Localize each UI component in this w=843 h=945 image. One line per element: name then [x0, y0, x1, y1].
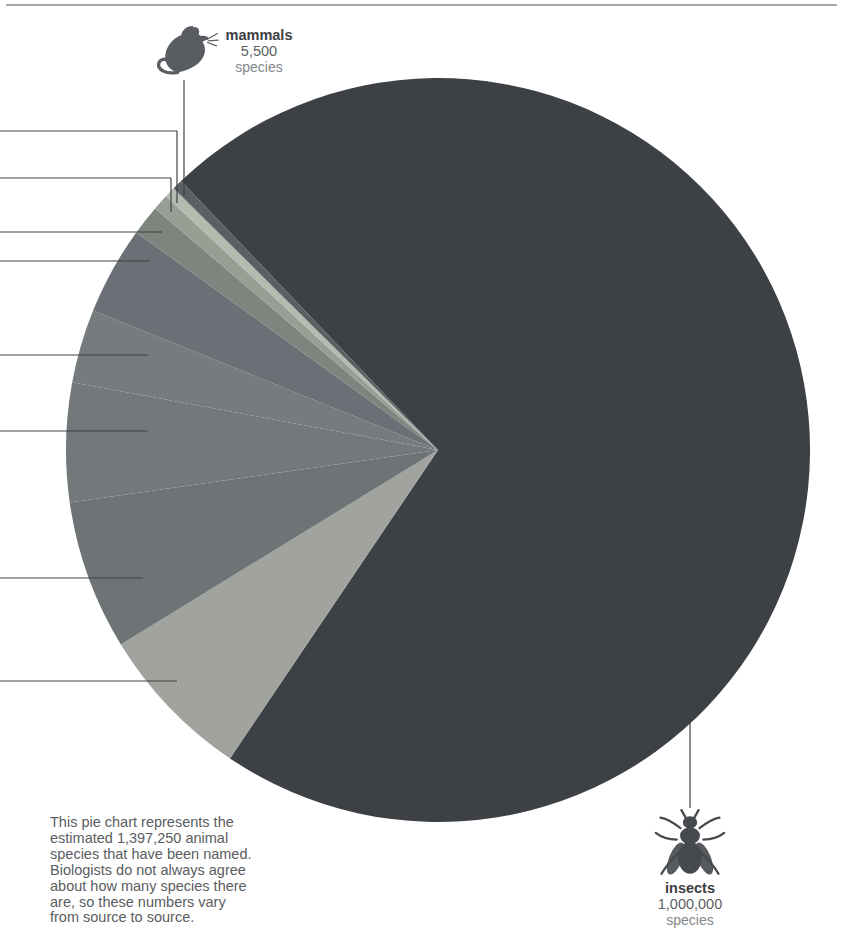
mammals-label-value: 5,500: [199, 43, 319, 59]
mammals-label-unit: species: [199, 59, 319, 75]
insects-label-name: insects: [630, 880, 750, 896]
pie-infographic: mammals 5,500 species insects 1,000,000 …: [0, 0, 843, 945]
pie-chart: [0, 0, 843, 945]
insects-label-unit: species: [630, 912, 750, 928]
caption-text: This pie chart represents the estimated …: [50, 815, 280, 926]
insects-label-value: 1,000,000: [630, 896, 750, 912]
mammals-label-name: mammals: [199, 27, 319, 43]
mammals-label: mammals 5,500 species: [199, 27, 319, 75]
insects-label: insects 1,000,000 species: [630, 880, 750, 928]
